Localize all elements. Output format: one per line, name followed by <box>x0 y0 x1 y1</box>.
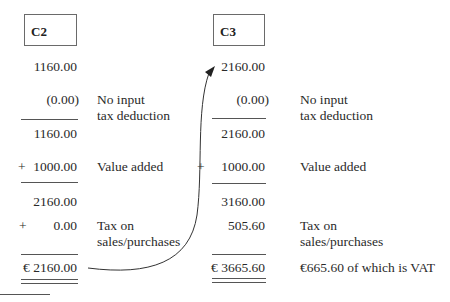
carry-over-arrow-icon <box>0 0 450 302</box>
